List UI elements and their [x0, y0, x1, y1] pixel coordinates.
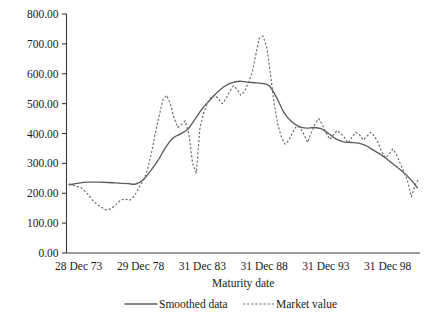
y-axis-tick-label: 500.00 [27, 98, 59, 110]
x-axis-tick-label: 31 Dec 98 [364, 260, 412, 272]
x-axis-tick-label: 28 Dec 73 [55, 260, 103, 272]
legend-label-market-value: Market value [276, 298, 337, 310]
chart-legend: Smoothed data Market value [125, 298, 337, 310]
x-axis-tick-label: 31 Dec 83 [179, 260, 227, 272]
legend-label-smoothed-data: Smoothed data [159, 298, 228, 310]
y-axis-tick-label: 800.00 [27, 8, 59, 20]
y-axis-tick-label: 100.00 [27, 217, 59, 229]
series-line-smoothed-data [69, 81, 418, 188]
line-chart: 800.00700.00600.00500.00400.00300.00200.… [0, 0, 434, 330]
x-axis-tick-label: 31 Dec 93 [302, 260, 350, 272]
y-axis-tick-label: 0.00 [38, 247, 58, 259]
chart-container: 800.00700.00600.00500.00400.00300.00200.… [0, 0, 434, 330]
x-axis-tick-labels: 28 Dec 7329 Dec 7831 Dec 8331 Dec 8831 D… [55, 260, 412, 272]
y-axis-tick-label: 600.00 [27, 68, 59, 80]
x-axis-tick-label: 31 Dec 88 [241, 260, 289, 272]
x-axis-title: Maturity date [212, 277, 274, 290]
y-axis-tick-label: 200.00 [27, 187, 59, 199]
y-axis-tick-marks [62, 14, 67, 253]
y-axis-tick-label: 400.00 [27, 128, 59, 140]
y-axis-tick-label: 300.00 [27, 157, 59, 169]
x-axis-tick-label: 29 Dec 78 [117, 260, 165, 272]
y-axis-tick-labels: 800.00700.00600.00500.00400.00300.00200.… [27, 8, 59, 259]
y-axis-tick-label: 700.00 [27, 38, 59, 50]
